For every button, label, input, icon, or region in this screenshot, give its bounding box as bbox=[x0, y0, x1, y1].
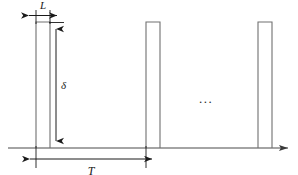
pulse-1 bbox=[36, 22, 50, 148]
pulse-train-figure: L δ T ... bbox=[0, 0, 298, 175]
pulse-outline bbox=[258, 22, 272, 148]
ellipsis-continuation: ... bbox=[199, 91, 213, 106]
pulse-2 bbox=[146, 22, 160, 148]
label-amplitude: δ bbox=[61, 79, 67, 91]
pulse-outline bbox=[146, 22, 160, 148]
pulse-3 bbox=[258, 22, 272, 148]
label-period: T bbox=[88, 164, 96, 175]
label-pulse-width: L bbox=[39, 0, 46, 11]
diagram-canvas: L δ T ... bbox=[0, 0, 298, 175]
pulse-outline bbox=[36, 22, 50, 148]
